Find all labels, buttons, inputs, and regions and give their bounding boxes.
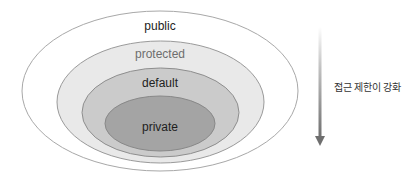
default-label: default xyxy=(142,76,179,90)
protected-label: protected xyxy=(135,47,185,61)
private-label: private xyxy=(142,120,178,134)
restriction-strengthened-label: 접근 제한이 강화 xyxy=(334,79,401,94)
arrow-down-icon xyxy=(315,27,325,146)
public-label: public xyxy=(144,19,175,33)
